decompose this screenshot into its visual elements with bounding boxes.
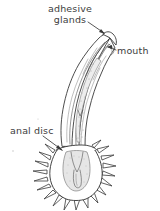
organism-body: [61, 32, 116, 146]
spine: [45, 144, 55, 153]
label-adhesive-glands: adhesive glands: [46, 4, 94, 25]
label-adhesive-glands-line2: glands: [46, 15, 94, 26]
spine: [92, 140, 101, 148]
anatomical-diagram: [0, 0, 160, 211]
spine: [33, 170, 47, 174]
figure-root: adhesive glands mouth anal disc: [0, 0, 160, 211]
spine: [97, 146, 109, 153]
label-adhesive-glands-line1: adhesive: [46, 4, 94, 15]
spine: [35, 161, 48, 167]
spine: [102, 171, 115, 176]
spine: [44, 190, 56, 199]
spine: [101, 155, 114, 160]
anal-disc: [33, 140, 116, 210]
label-mouth: mouth: [117, 46, 149, 57]
spine: [39, 152, 51, 160]
spine: [103, 163, 116, 168]
spine: [37, 184, 51, 190]
label-anal-disc: anal disc: [10, 126, 54, 137]
spine: [34, 177, 48, 181]
